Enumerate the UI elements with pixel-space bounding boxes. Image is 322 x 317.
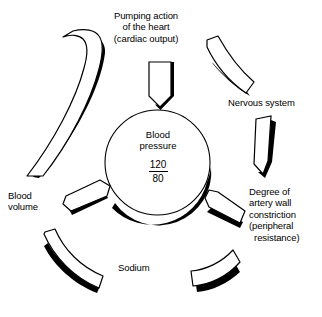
arrow-artery-constriction <box>254 116 276 178</box>
arrow-blood-volume-body <box>27 30 102 176</box>
center-circle <box>105 110 210 215</box>
label-artery-wall-constriction: Degree of artery wall constriction (peri… <box>249 186 322 243</box>
arrow-bottom-right <box>191 250 240 292</box>
arrow-bottom-left <box>44 229 103 293</box>
blood-pressure-diagram: Blood pressure 120 80 Pumping action of … <box>0 0 322 317</box>
arrow-bottom-right-body <box>191 250 240 286</box>
arrow-inner-left <box>63 180 110 215</box>
label-nervous-system: Nervous system <box>228 97 322 108</box>
label-pumping-action: Pumping action of the heart (cardiac out… <box>86 10 206 44</box>
label-blood-volume: Blood volume <box>8 190 68 213</box>
arrow-pumping-action <box>149 62 174 110</box>
arrow-inner-right <box>205 190 245 228</box>
arrow-blood-volume <box>27 30 105 178</box>
label-sodium: Sodium <box>118 262 178 273</box>
arrow-nervous-system <box>207 36 254 96</box>
